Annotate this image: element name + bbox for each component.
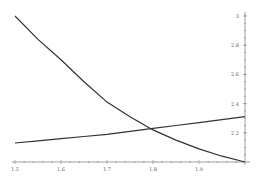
x-tick-label: 1.8	[149, 166, 157, 172]
y-tick-label: 2.8	[231, 42, 239, 48]
y-tick-label: 2.4	[231, 101, 239, 107]
y-tick-label: 3	[236, 13, 239, 19]
x-tick-label: 1.6	[57, 166, 65, 172]
series-group	[15, 16, 245, 162]
axes	[12, 12, 250, 165]
y-tick-label: 2.2	[231, 130, 239, 136]
x-tick-label: 1.7	[103, 166, 111, 172]
y-tick-label: 2.6	[231, 71, 239, 77]
series-line-1	[15, 117, 245, 143]
x-tick-label: 1.9	[195, 166, 203, 172]
line-chart: 1.51.61.71.81.9 2.22.42.62.83	[0, 0, 259, 183]
x-tick-label: 1.5	[11, 166, 19, 172]
